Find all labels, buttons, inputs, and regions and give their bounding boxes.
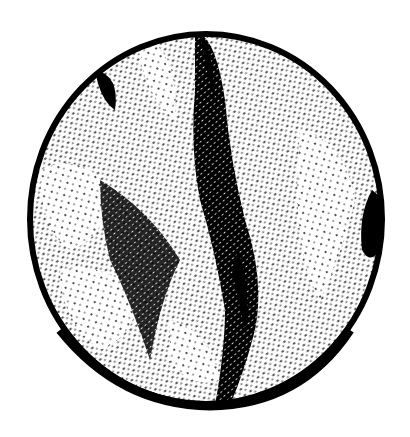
stippled-disc bbox=[0, 0, 410, 437]
